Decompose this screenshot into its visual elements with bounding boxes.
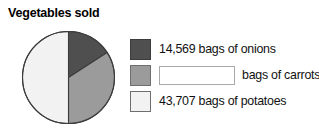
carrots-answer-input[interactable] [159,66,235,85]
pie-slice-potatoes [23,32,69,124]
legend-label-carrots: bags of carrots [242,69,319,81]
legend-label-potatoes: 43,707 bags of potatoes [159,95,286,107]
legend-row-potatoes: 43,707 bags of potatoes [130,88,319,114]
light-gray-swatch-icon [130,91,151,112]
medium-gray-swatch-icon [130,65,151,86]
pie-chart-graphic [21,30,117,126]
legend-label-onions: 14,569 bags of onions [159,43,276,55]
legend-row-onions: 14,569 bags of onions [130,36,319,62]
legend-row-carrots: bags of carrots [130,62,319,88]
dark-gray-swatch-icon [130,39,151,60]
chart-title: Vegetables sold [8,6,99,20]
pie-chart-figure: Vegetables sold 14,569 bags of onions ba… [0,0,319,139]
chart-legend: 14,569 bags of onions bags of carrots 43… [130,36,319,114]
